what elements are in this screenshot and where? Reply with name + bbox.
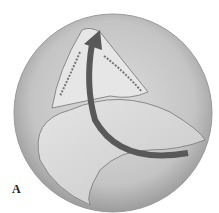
medical-illustration: A — [0, 0, 219, 213]
endoscopic-view-drawing — [0, 0, 219, 213]
panel-label: A — [12, 182, 21, 197]
